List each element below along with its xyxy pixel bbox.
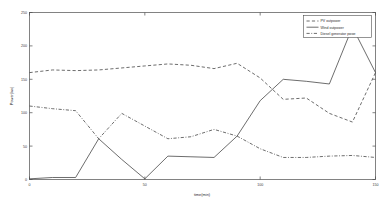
chart-figure: 050100150200250 050100150 Power(kw) time… [0,0,391,201]
x-tick-label: 0 [29,183,31,187]
series-line-1 [30,27,376,179]
chart-legend: PV outpowerWind outpowerDiesel generator… [304,16,372,38]
y-tick-label: 200 [21,44,27,48]
legend-label-2: Diesel generator pwoe [321,32,356,36]
data-series-group [30,27,376,179]
series-line-2 [30,106,376,157]
x-tick-label: 100 [257,183,263,187]
legend-label-0: PV outpower [321,19,342,23]
y-axis-label: Power(kw) [9,86,14,105]
y-tick-label: 100 [21,111,27,115]
y-tick-label: 50 [23,145,27,149]
x-tick-label: 150 [373,183,379,187]
y-tick-label: 250 [21,11,27,15]
series-line-0 [30,63,376,122]
y-tick-label: 150 [21,78,27,82]
chart-canvas: 050100150200250 050100150 Power(kw) time… [0,0,391,201]
x-axis-label: time(min) [194,192,211,197]
y-tick-label: 0 [25,178,27,182]
x-tick-label: 50 [143,183,147,187]
legend-label-1: Wind outpower [321,26,345,30]
x-axis-ticks: 050100150 [29,13,379,187]
